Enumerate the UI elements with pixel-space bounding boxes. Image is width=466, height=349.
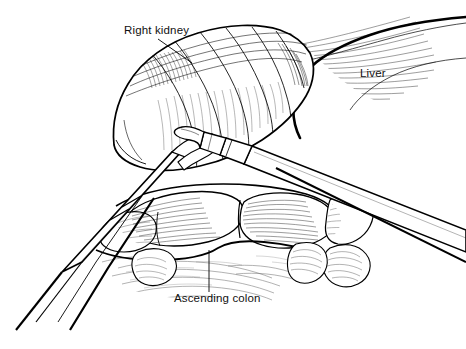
surgical-illustration: Right kidney Liver Ascending colon: [0, 0, 466, 349]
colon-haustrum-2: [240, 193, 335, 248]
label-liver: Liver: [360, 67, 386, 79]
tissue-lobe-left: [132, 249, 176, 286]
label-ascending-colon: Ascending colon: [174, 292, 261, 304]
tissue-lobe-right: [323, 245, 371, 287]
illustration-canvas: Right kidney Liver Ascending colon: [0, 0, 466, 349]
label-right-kidney: Right kidney: [124, 24, 189, 36]
